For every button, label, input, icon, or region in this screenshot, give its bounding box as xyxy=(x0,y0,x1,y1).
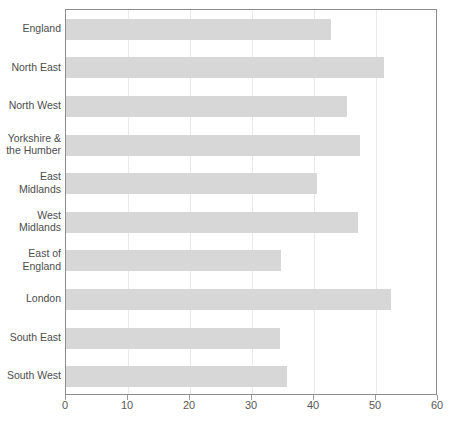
bar xyxy=(66,96,347,117)
bar xyxy=(66,328,280,349)
bar xyxy=(66,173,317,194)
category-label: England xyxy=(0,22,61,35)
x-tick-label-0: 0 xyxy=(45,399,85,411)
bar xyxy=(66,212,358,233)
x-tick-label-60: 60 xyxy=(417,399,450,411)
category-label: North West xyxy=(0,99,61,112)
category-label: East of England xyxy=(0,247,61,272)
x-tick-label-10: 10 xyxy=(107,399,147,411)
category-label: Yorkshire & the Humber xyxy=(0,132,61,157)
category-label: West Midlands xyxy=(0,209,61,234)
category-label: South East xyxy=(0,331,61,344)
plot-area xyxy=(65,9,437,395)
category-label: East Midlands xyxy=(0,170,61,195)
x-tick-label-30: 30 xyxy=(231,399,271,411)
category-label: South West xyxy=(0,369,61,382)
bar xyxy=(66,289,391,310)
category-label: North East xyxy=(0,61,61,74)
category-label: London xyxy=(0,292,61,305)
bar xyxy=(66,19,331,40)
x-tick-label-50: 50 xyxy=(355,399,395,411)
x-tick-label-20: 20 xyxy=(169,399,209,411)
bar xyxy=(66,57,384,78)
bar-chart: EnglandNorth EastNorth WestYorkshire & t… xyxy=(0,0,450,427)
bar xyxy=(66,366,287,387)
bar xyxy=(66,135,360,156)
bar xyxy=(66,250,281,271)
x-tick-label-40: 40 xyxy=(293,399,333,411)
